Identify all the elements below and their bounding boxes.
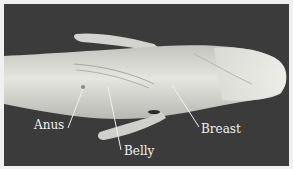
fish-photo: Anus Belly Breast xyxy=(4,4,289,166)
fish-illustration xyxy=(4,4,289,166)
fish-head xyxy=(214,48,286,101)
belly-label: Belly xyxy=(124,145,154,157)
fin-shadow xyxy=(148,110,160,114)
anus-marker xyxy=(81,85,85,89)
anus-label: Anus xyxy=(34,119,64,131)
breast-label: Breast xyxy=(201,123,241,135)
figure-frame: Anus Belly Breast xyxy=(0,0,293,169)
